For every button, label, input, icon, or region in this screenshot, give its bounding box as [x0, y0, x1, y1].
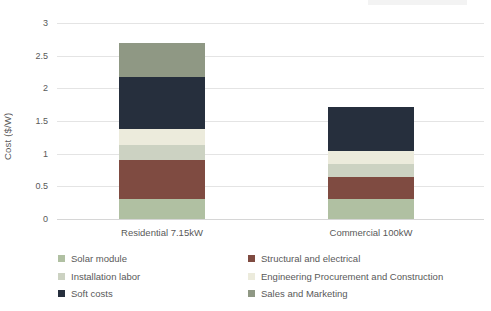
y-tick-label: 0 [16, 213, 48, 225]
bar-segment [119, 129, 205, 145]
legend-item: Sales and Marketing [248, 285, 443, 303]
bar-segment [328, 151, 414, 164]
y-tick-label: 1.5 [16, 115, 48, 127]
legend-label: Installation labor [71, 271, 140, 282]
legend-label: Structural and electrical [261, 253, 360, 264]
legend-label: Solar module [71, 253, 127, 264]
bar-segment [119, 199, 205, 219]
legend-item: Engineering Procurement and Construction [248, 268, 443, 286]
y-axis-title: Cost ($/W) [2, 88, 18, 184]
bar-segment [328, 107, 414, 151]
bar-segment [119, 77, 205, 129]
bar-segment [328, 177, 414, 199]
y-tick-label: 1 [16, 148, 48, 160]
legend-label: Soft costs [71, 288, 113, 299]
legend-swatch-icon [58, 255, 65, 262]
gridline [57, 219, 484, 220]
bar-segment [119, 145, 205, 160]
x-axis-label: Residential 7.15kW [82, 227, 242, 238]
legend-item: Solar module [58, 250, 248, 268]
legend: Solar moduleInstallation laborSoft costs… [58, 250, 443, 303]
legend-swatch-icon [58, 290, 65, 297]
legend-item: Structural and electrical [248, 250, 443, 268]
legend-item: Soft costs [58, 285, 248, 303]
bar-segment [119, 160, 205, 200]
y-tick-label: 0.5 [16, 180, 48, 192]
legend-label: Engineering Procurement and Construction [261, 271, 443, 282]
top-right-artifact-strip [368, 0, 467, 5]
legend-swatch-icon [248, 255, 255, 262]
y-tick-label: 2 [16, 82, 48, 94]
bar-segment [328, 199, 414, 219]
legend-label: Sales and Marketing [261, 288, 348, 299]
legend-swatch-icon [248, 273, 255, 280]
y-tick-label: 2.5 [16, 50, 48, 62]
bar-segment [328, 164, 414, 177]
gridline [57, 23, 484, 24]
legend-item: Installation labor [58, 268, 248, 286]
y-tick-label: 3 [16, 17, 48, 29]
bar-segment [119, 43, 205, 76]
legend-swatch-icon [248, 290, 255, 297]
x-axis-label: Commercial 100kW [291, 227, 451, 238]
legend-swatch-icon [58, 273, 65, 280]
stacked-bar-chart: Cost ($/W) 00.511.522.53 Residential 7.1… [0, 0, 491, 311]
